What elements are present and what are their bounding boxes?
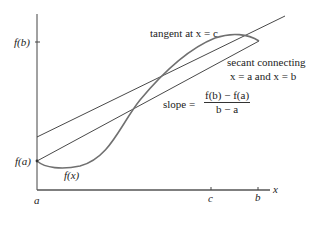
secant-label-line2: x = a and x = b	[230, 71, 296, 82]
tangent-label: tangent at x = c	[150, 28, 218, 39]
slope-fraction: f(b) − f(a) b − a	[204, 90, 250, 115]
slope-denominator: b − a	[204, 103, 250, 115]
tick-label-fa: f(a)	[15, 156, 31, 167]
tick-label-fb: f(b)	[14, 37, 30, 48]
x-axis-label: x	[273, 184, 278, 195]
tick-label-a: a	[34, 195, 40, 206]
tick-label-b: b	[255, 192, 261, 203]
slope-label: slope =	[163, 99, 195, 110]
secant-label-line1: secant connecting	[227, 57, 306, 68]
slope-numerator: f(b) − f(a)	[204, 90, 250, 103]
point-fa	[36, 160, 39, 163]
tick-label-c: c	[208, 193, 213, 204]
curve-label: f(x)	[64, 170, 79, 181]
